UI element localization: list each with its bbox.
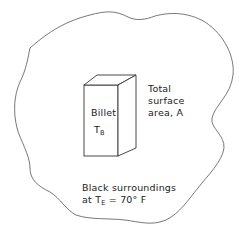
surface-area-label-line3: area, A [148,107,183,118]
surroundings-label-line2: at TE = 70° F [82,194,146,209]
surface-area-label-line1: Total [148,83,171,94]
surface-area-label-line2: surface [148,95,185,106]
billet-label: Billet [91,107,116,118]
billet-temperature-label: TB [94,124,105,139]
surroundings-temp-subscript: E [101,199,105,207]
billet-temp-subscript: B [100,129,105,137]
surroundings-at: at [82,194,92,205]
billet-side-face [118,75,136,156]
surroundings-temp-value: = 70° F [109,194,147,205]
billet-front-face [84,85,118,156]
surroundings-label-line1: Black surroundings [82,182,176,193]
